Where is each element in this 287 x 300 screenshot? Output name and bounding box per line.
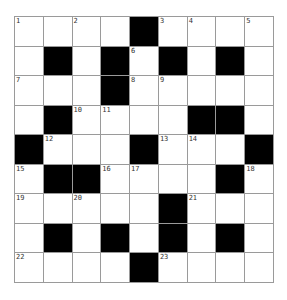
crossword-cell[interactable]: 13 (158, 134, 187, 164)
black-square (187, 105, 216, 135)
crossword-cell[interactable] (72, 134, 101, 164)
crossword-cell[interactable] (14, 46, 43, 76)
crossword-cell[interactable] (14, 223, 43, 253)
crossword-cell[interactable] (215, 16, 244, 46)
crossword-cell[interactable]: 5 (244, 16, 273, 46)
crossword-cell[interactable] (187, 164, 216, 194)
crossword-cell[interactable] (129, 105, 158, 135)
crossword-cell[interactable]: 8 (129, 75, 158, 105)
clue-number: 4 (189, 17, 193, 25)
crossword-cell[interactable] (100, 252, 129, 282)
crossword-cell[interactable]: 16 (100, 164, 129, 194)
crossword-cell[interactable] (187, 252, 216, 282)
clue-number: 21 (189, 194, 197, 202)
crossword-cell[interactable]: 7 (14, 75, 43, 105)
clue-number: 17 (131, 165, 139, 173)
crossword-cell[interactable]: 19 (14, 193, 43, 223)
crossword-cell[interactable] (187, 75, 216, 105)
black-square (158, 46, 187, 76)
crossword-cell[interactable]: 12 (43, 134, 72, 164)
crossword-cell[interactable]: 17 (129, 164, 158, 194)
clue-number: 10 (74, 106, 82, 114)
black-square (215, 223, 244, 253)
black-square (43, 46, 72, 76)
clue-number: 3 (160, 17, 164, 25)
black-square (158, 223, 187, 253)
crossword-cell[interactable] (129, 223, 158, 253)
clue-number: 14 (189, 135, 197, 143)
crossword-cell[interactable]: 23 (158, 252, 187, 282)
black-square (43, 223, 72, 253)
clue-number: 23 (160, 253, 168, 261)
black-square (129, 252, 158, 282)
crossword-cell[interactable]: 3 (158, 16, 187, 46)
crossword-cell[interactable]: 14 (187, 134, 216, 164)
clue-number: 13 (160, 135, 168, 143)
clue-number: 9 (160, 76, 164, 84)
black-square (129, 134, 158, 164)
crossword-cell[interactable] (100, 134, 129, 164)
crossword-cell[interactable] (244, 193, 273, 223)
crossword-cell[interactable]: 11 (100, 105, 129, 135)
crossword-cell[interactable] (43, 16, 72, 46)
crossword-cell[interactable] (244, 252, 273, 282)
clue-number: 12 (45, 135, 53, 143)
black-square (43, 105, 72, 135)
crossword-cell[interactable]: 18 (244, 164, 273, 194)
crossword-cell[interactable] (158, 164, 187, 194)
crossword-cell[interactable] (244, 223, 273, 253)
crossword-cell[interactable] (100, 193, 129, 223)
clue-number: 2 (74, 17, 78, 25)
crossword-cell[interactable] (244, 105, 273, 135)
crossword-cell[interactable]: 6 (129, 46, 158, 76)
crossword-cell[interactable] (187, 223, 216, 253)
crossword-cell[interactable] (215, 134, 244, 164)
crossword-cell[interactable]: 1 (14, 16, 43, 46)
crossword-cell[interactable]: 22 (14, 252, 43, 282)
crossword-cell[interactable] (215, 193, 244, 223)
black-square (158, 193, 187, 223)
crossword-cell[interactable]: 10 (72, 105, 101, 135)
black-square (215, 164, 244, 194)
black-square (215, 46, 244, 76)
black-square (244, 134, 273, 164)
crossword-cell[interactable] (215, 252, 244, 282)
crossword-cell[interactable]: 15 (14, 164, 43, 194)
black-square (72, 164, 101, 194)
crossword-cell[interactable] (244, 46, 273, 76)
black-square (100, 75, 129, 105)
black-square (14, 134, 43, 164)
crossword-cell[interactable] (43, 193, 72, 223)
crossword-cell[interactable]: 21 (187, 193, 216, 223)
crossword-cell[interactable] (43, 252, 72, 282)
clue-number: 7 (16, 76, 20, 84)
crossword-cell[interactable] (72, 75, 101, 105)
clue-number: 19 (16, 194, 24, 202)
clue-number: 6 (131, 47, 135, 55)
crossword-cell[interactable] (14, 105, 43, 135)
clue-number: 16 (102, 165, 110, 173)
crossword-cell[interactable]: 4 (187, 16, 216, 46)
crossword-cell[interactable] (158, 105, 187, 135)
crossword-cell[interactable] (100, 16, 129, 46)
crossword-cell[interactable] (72, 46, 101, 76)
clue-number: 20 (74, 194, 82, 202)
crossword-cell[interactable]: 9 (158, 75, 187, 105)
clue-number: 11 (102, 106, 110, 114)
crossword-cell[interactable] (43, 75, 72, 105)
crossword-cell[interactable]: 20 (72, 193, 101, 223)
clue-number: 22 (16, 253, 24, 261)
crossword-cell[interactable] (129, 193, 158, 223)
crossword-cell[interactable]: 2 (72, 16, 101, 46)
clue-number: 18 (246, 165, 254, 173)
crossword-cell[interactable] (72, 223, 101, 253)
crossword-cell[interactable] (244, 75, 273, 105)
clue-number: 8 (131, 76, 135, 84)
black-square (215, 105, 244, 135)
clue-number: 15 (16, 165, 24, 173)
crossword-cell[interactable] (187, 46, 216, 76)
crossword-cell[interactable] (215, 75, 244, 105)
black-square (43, 164, 72, 194)
black-square (100, 46, 129, 76)
crossword-cell[interactable] (72, 252, 101, 282)
